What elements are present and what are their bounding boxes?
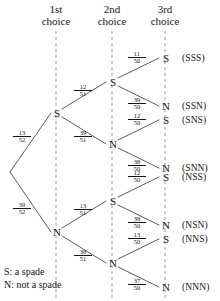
probability-S-SS: 12 51 bbox=[74, 84, 92, 98]
node-S-stage1: S bbox=[50, 108, 64, 119]
probability-NN-NNN-denominator: 50 bbox=[128, 284, 146, 291]
node-SS-stage2: S bbox=[106, 77, 120, 88]
probability-S-SS-denominator: 51 bbox=[74, 90, 92, 97]
probability-SS-SSN: 39 50 bbox=[128, 97, 146, 111]
outcome-NSN: (NSN) bbox=[182, 220, 208, 230]
legend-spade: S: a spade bbox=[4, 266, 62, 279]
header-3rd-choice: 3rd choice bbox=[135, 4, 195, 27]
probability-SS-SSS: 11 50 bbox=[128, 51, 146, 65]
outcome-NNN: (NNN) bbox=[182, 282, 209, 292]
probability-NN-NNS-denominator: 50 bbox=[128, 238, 146, 245]
outcome-SSN: (SSN) bbox=[182, 101, 206, 111]
header-2nd-choice: 2nd choice bbox=[82, 4, 142, 27]
probability-SS-SSN-denominator: 50 bbox=[128, 103, 146, 110]
header-2nd-choice-line2: choice bbox=[82, 16, 142, 28]
probability-N-NS-denominator: 51 bbox=[74, 209, 92, 216]
legend: S: a spade N: not a spade bbox=[4, 266, 62, 291]
node-NS-stage2: S bbox=[106, 196, 120, 207]
header-2nd-choice-line1: 2nd bbox=[82, 4, 142, 16]
probability-NS-NSS: 12 50 bbox=[128, 170, 146, 184]
node-N-stage1: N bbox=[50, 227, 64, 238]
probability-root-N: 39 52 bbox=[13, 202, 31, 216]
header-3rd-choice-line1: 3rd bbox=[135, 4, 195, 16]
probability-SN-SNS-denominator: 50 bbox=[128, 119, 146, 126]
probability-NN-NNN: 37 50 bbox=[128, 278, 146, 292]
outcome-SNS: (SNS) bbox=[182, 115, 206, 125]
probability-NS-NSN: 38 50 bbox=[128, 216, 146, 230]
probability-SN-SNS: 12 50 bbox=[128, 113, 146, 127]
node-SNS-stage3: S bbox=[159, 115, 173, 126]
probability-S-SN-denominator: 51 bbox=[74, 136, 92, 143]
probability-SS-SSS-denominator: 50 bbox=[128, 57, 146, 64]
probability-N-NS: 13 51 bbox=[74, 203, 92, 217]
outcome-NNS: (NNS) bbox=[182, 234, 208, 244]
probability-N-NN: 38 51 bbox=[74, 249, 92, 263]
probability-root-N-denominator: 52 bbox=[13, 208, 31, 215]
node-SSN-stage3: N bbox=[159, 101, 173, 112]
header-1st-choice: 1st choice bbox=[26, 4, 86, 27]
node-NNN-stage3: N bbox=[159, 282, 173, 293]
probability-S-SN: 39 51 bbox=[74, 130, 92, 144]
probability-root-S-denominator: 52 bbox=[13, 136, 31, 143]
node-NSS-stage3: S bbox=[159, 172, 173, 183]
node-SN-stage2: N bbox=[106, 139, 120, 150]
probability-root-S: 13 52 bbox=[13, 130, 31, 144]
probability-N-NN-denominator: 51 bbox=[74, 255, 92, 262]
probability-NN-NNS: 13 50 bbox=[128, 232, 146, 246]
legend-not-spade: N: not a spade bbox=[4, 279, 62, 292]
node-SSS-stage3: S bbox=[159, 53, 173, 64]
header-1st-choice-line1: 1st bbox=[26, 4, 86, 16]
outcome-NSS: (NSS) bbox=[182, 172, 206, 182]
node-NN-stage2: N bbox=[106, 258, 120, 269]
outcome-SSS: (SSS) bbox=[182, 53, 205, 63]
probability-NS-NSS-denominator: 50 bbox=[128, 176, 146, 183]
header-1st-choice-line2: choice bbox=[26, 16, 86, 28]
probability-NS-NSN-denominator: 50 bbox=[128, 222, 146, 229]
tree-graphics bbox=[0, 0, 220, 301]
probability-tree-diagram: 1st choice 2nd choice 3rd choice S N S N… bbox=[0, 0, 220, 301]
node-NNS-stage3: S bbox=[159, 234, 173, 245]
header-3rd-choice-line2: choice bbox=[135, 16, 195, 28]
node-NSN-stage3: N bbox=[159, 220, 173, 231]
